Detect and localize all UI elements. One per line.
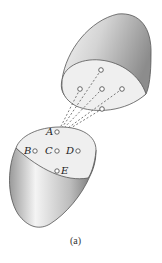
upper-surface [61,14,151,111]
label-A: A [46,127,53,137]
point-A [55,130,59,134]
diagram-figure: A B C D E (a) [0,0,162,263]
point-E [55,169,59,173]
lower-surface [10,127,97,227]
point-D [76,149,80,153]
upper-point-1 [99,68,104,73]
label-C: C [45,146,53,156]
figure-caption: (a) [70,236,81,246]
label-E: E [61,166,68,176]
label-D: D [66,146,74,156]
surfaces-drawing [0,0,162,263]
upper-point-4 [120,87,125,92]
label-B: B [24,146,31,156]
upper-point-2 [78,87,83,92]
upper-point-5 [100,107,105,112]
point-B [33,149,37,153]
point-C [55,149,59,153]
upper-point-3 [100,87,105,92]
